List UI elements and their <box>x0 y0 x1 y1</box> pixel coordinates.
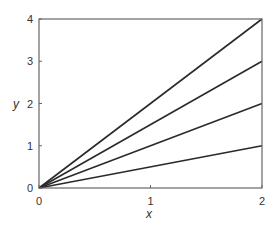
y-tick-label: 1 <box>27 140 33 152</box>
y-tick-label: 3 <box>27 55 33 67</box>
x-tick-label: 1 <box>147 195 153 207</box>
x-axis-label: x <box>145 207 153 221</box>
y-tick-label: 0 <box>27 182 33 194</box>
series-lines <box>39 19 262 188</box>
y-axis-label: y <box>12 97 20 111</box>
series-line-3 <box>39 104 262 189</box>
y-tick-labels: 01234 <box>27 13 33 194</box>
series-line-2 <box>39 61 262 188</box>
y-tick-label: 2 <box>27 98 33 110</box>
x-tick-labels: 012 <box>36 195 265 207</box>
y-tick-label: 4 <box>27 13 33 25</box>
line-chart: 012 01234 x y <box>0 0 276 227</box>
series-line-1 <box>39 19 262 188</box>
series-line-4 <box>39 146 262 188</box>
x-tick-label: 0 <box>36 195 42 207</box>
x-tick-label: 2 <box>259 195 265 207</box>
